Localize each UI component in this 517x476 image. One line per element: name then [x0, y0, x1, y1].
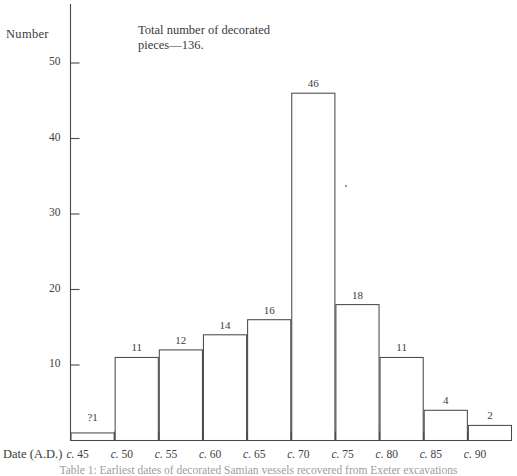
bar-value-label: 2: [468, 409, 512, 421]
histogram-bar: [115, 357, 158, 440]
x-tick-marks: [71, 432, 468, 441]
y-tick-label: 20: [35, 282, 61, 294]
chart-figure: Number Total number of decorated pieces—…: [0, 0, 517, 476]
bar-value-label: 14: [203, 319, 247, 331]
x-tick-label: c. 75: [331, 448, 353, 460]
y-tick-label: 30: [35, 206, 61, 218]
bar-value-label: 4: [424, 394, 468, 406]
bar-value-label: 11: [115, 341, 159, 353]
figure-caption: Table 1: Earliest dates of decorated Sam…: [0, 464, 517, 476]
bar-value-label: 46: [291, 77, 335, 89]
histogram-bar: [336, 305, 379, 441]
y-tick-label: 10: [35, 357, 61, 369]
histogram-bar: [468, 425, 511, 440]
x-tick-label: c. 80: [376, 448, 398, 460]
x-tick-label: c. 60: [199, 448, 221, 460]
histogram-bar: [248, 320, 291, 441]
bar-value-label: 12: [159, 334, 203, 346]
x-tick-label: c. 85: [420, 448, 442, 460]
x-tick-label: c. 45: [67, 448, 89, 460]
bars-group: [71, 93, 512, 440]
bar-value-label: 16: [247, 304, 291, 316]
histogram-bar: [380, 357, 423, 440]
bar-value-label: 11: [380, 341, 424, 353]
histogram-bar: [424, 410, 467, 440]
histogram-bar: [203, 335, 246, 441]
x-axis-title: Date (A.D.): [3, 447, 62, 462]
bar-value-label: ?1: [71, 411, 115, 423]
y-tick-label: 50: [35, 55, 61, 67]
y-tick-label: 40: [35, 131, 61, 143]
y-tick-marks: [71, 63, 80, 365]
bar-value-label: 18: [335, 289, 379, 301]
x-tick-label: c. 65: [243, 448, 265, 460]
x-tick-label: c. 70: [287, 448, 309, 460]
x-tick-label: c. 50: [111, 448, 133, 460]
histogram-bar: [71, 433, 114, 441]
histogram-bar: [292, 93, 335, 440]
x-tick-label: c. 90: [464, 448, 486, 460]
x-tick-label: c. 55: [155, 448, 177, 460]
histogram-bar: [159, 350, 202, 441]
scan-speck-icon: [345, 185, 347, 187]
